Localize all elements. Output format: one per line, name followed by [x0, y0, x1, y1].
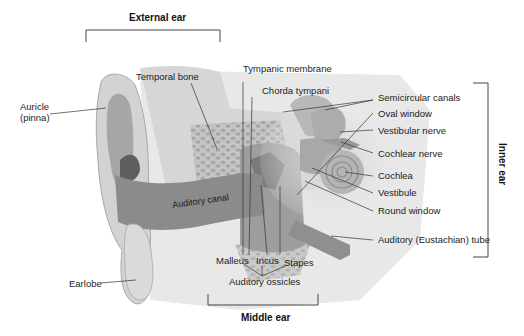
- middle-ear-heading: Middle ear: [241, 312, 290, 323]
- label-oval-window: Oval window: [378, 108, 432, 119]
- inner-ear-heading: Inner ear: [497, 143, 508, 185]
- label-earlobe: Earlobe: [69, 278, 102, 289]
- label-auditory-ossicles: Auditory ossicles: [229, 276, 300, 287]
- label-malleus: Malleus: [216, 255, 249, 266]
- cochlea-spiral: [320, 150, 364, 194]
- external-ear-bracket: [86, 30, 220, 42]
- label-cochlear-nerve: Cochlear nerve: [378, 148, 442, 159]
- label-auricle: Auricle (pinna): [20, 101, 50, 123]
- label-stapes: Stapes: [284, 257, 314, 268]
- inner-ear-bracket: [473, 83, 488, 257]
- label-vestibule: Vestibule: [378, 187, 417, 198]
- label-temporal-bone: Temporal bone: [136, 71, 199, 82]
- label-semicircular-canals: Semicircular canals: [378, 92, 460, 103]
- label-round-window: Round window: [378, 205, 440, 216]
- external-ear-heading: External ear: [129, 12, 186, 23]
- label-chorda-tympani: Chorda tympani: [262, 85, 329, 96]
- label-tympanic-membrane: Tympanic membrane: [243, 63, 332, 74]
- label-vestibular-nerve: Vestibular nerve: [378, 125, 446, 136]
- label-cochlea: Cochlea: [378, 170, 413, 181]
- label-auditory-tube: Auditory (Eustachian) tube: [378, 234, 490, 245]
- label-incus: Incus: [256, 255, 279, 266]
